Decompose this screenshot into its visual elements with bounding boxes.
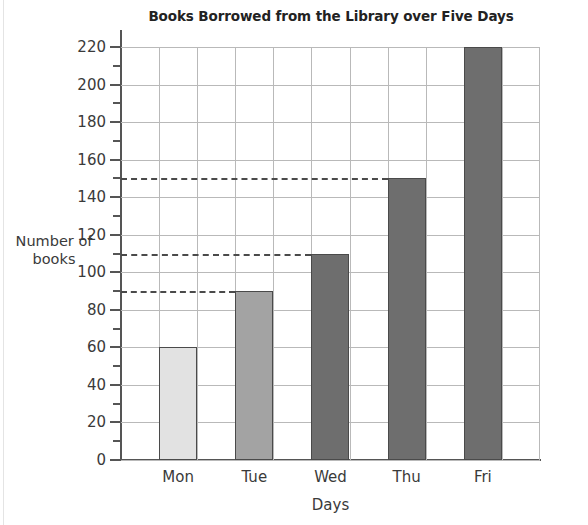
dashed-guide-150 — [121, 178, 388, 180]
y-tick-minor — [113, 177, 121, 179]
y-tick-major — [110, 346, 121, 348]
y-tick-major — [110, 271, 121, 273]
y-axis-title-line-2: books — [6, 250, 102, 268]
x-tick-label-tue: Tue — [215, 470, 293, 485]
plot-area — [121, 47, 540, 460]
y-tick-major — [110, 196, 121, 198]
y-tick-major — [110, 421, 121, 423]
chart-title: Books Borrowed from the Library over Fiv… — [121, 8, 541, 24]
y-tick-minor — [113, 403, 121, 405]
y-tick-major — [110, 121, 121, 123]
y-tick-label-140: 140 — [54, 190, 106, 205]
y-tick-label-220: 220 — [54, 40, 106, 55]
y-tick-minor — [113, 253, 121, 255]
x-tick-label-wed: Wed — [291, 470, 369, 485]
y-tick-label-200: 200 — [54, 78, 106, 93]
y-tick-minor — [113, 140, 121, 142]
y-tick-label-20: 20 — [54, 415, 106, 430]
y-axis-title-line-1: Number of — [6, 232, 102, 250]
dashed-guide-110 — [121, 254, 311, 256]
y-axis-title: Number of books — [6, 232, 102, 268]
y-tick-major — [110, 459, 121, 461]
gridline-horizontal — [121, 460, 540, 461]
x-tick-label-fri: Fri — [444, 470, 522, 485]
y-tick-minor — [113, 440, 121, 442]
x-tick-label-thu: Thu — [368, 470, 446, 485]
y-tick-major — [110, 159, 121, 161]
y-tick-minor — [113, 65, 121, 67]
y-tick-major — [110, 84, 121, 86]
y-tick-minor — [113, 365, 121, 367]
x-axis-title: Days — [121, 496, 540, 514]
dashed-guide-90 — [121, 291, 235, 293]
y-tick-minor — [113, 215, 121, 217]
y-tick-label-60: 60 — [54, 340, 106, 355]
chart-page: Books Borrowed from the Library over Fiv… — [0, 0, 588, 525]
y-tick-minor — [113, 328, 121, 330]
y-tick-major — [110, 46, 121, 48]
y-tick-minor — [113, 102, 121, 104]
y-tick-label-0: 0 — [54, 453, 106, 468]
y-tick-major — [110, 384, 121, 386]
y-tick-major — [110, 234, 121, 236]
y-tick-label-160: 160 — [54, 153, 106, 168]
y-tick-minor — [113, 290, 121, 292]
y-tick-label-40: 40 — [54, 378, 106, 393]
page-edge-line — [3, 0, 4, 525]
dashed-guides-group — [121, 47, 540, 460]
y-tick-label-180: 180 — [54, 115, 106, 130]
y-tick-label-80: 80 — [54, 303, 106, 318]
x-tick-label-mon: Mon — [139, 470, 217, 485]
y-tick-major — [110, 309, 121, 311]
